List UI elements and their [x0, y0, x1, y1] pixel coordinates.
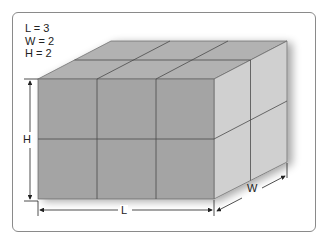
rectangular-prism-diagram	[0, 0, 328, 244]
height-label: H	[22, 134, 32, 145]
width-label: W	[246, 183, 258, 194]
length-label: L	[120, 205, 128, 216]
